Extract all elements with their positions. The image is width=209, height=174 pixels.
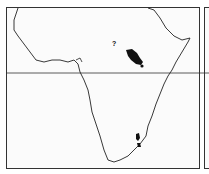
africa-map [0, 0, 209, 174]
uncertain-record-marker: ? [112, 40, 116, 47]
southeast-africa-range [136, 133, 140, 141]
east-africa-range [126, 49, 143, 65]
africa-coastline [14, 8, 190, 162]
